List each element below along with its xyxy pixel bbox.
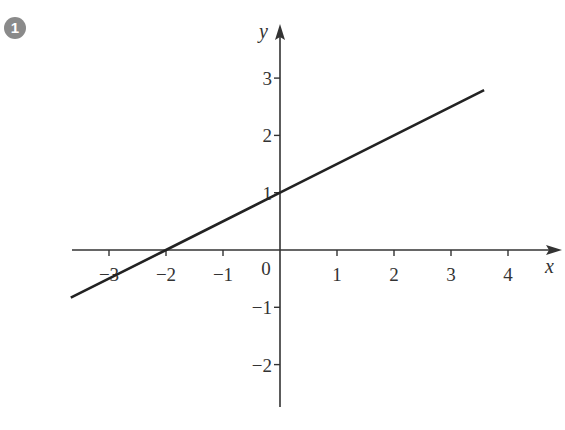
data-series	[71, 90, 484, 298]
y-tick-label: 3	[263, 68, 273, 89]
origin-label: 0	[261, 258, 271, 279]
x-tick-label: 1	[332, 264, 342, 285]
y-tick-label: −2	[252, 355, 272, 376]
x-tick-label: −1	[213, 264, 233, 285]
y-tick-label: −1	[252, 297, 272, 318]
axes	[72, 24, 562, 407]
line-series	[71, 90, 484, 298]
x-tick-label: 4	[503, 264, 513, 285]
x-tick-label: 3	[446, 264, 456, 285]
chart-figure: 1 xy−3−2−11234−2−11230	[0, 0, 565, 430]
question-number-badge: 1	[4, 17, 26, 39]
coordinate-plane: xy−3−2−11234−2−11230	[0, 0, 565, 430]
x-tick-label: 2	[389, 264, 399, 285]
y-tick-label: 2	[263, 125, 273, 146]
x-axis-label: x	[544, 255, 554, 277]
y-axis-label: y	[257, 20, 268, 43]
tick-labels: xy−3−2−11234−2−11230	[99, 20, 554, 376]
x-tick-label: −2	[156, 264, 176, 285]
tick-marks	[109, 78, 508, 365]
